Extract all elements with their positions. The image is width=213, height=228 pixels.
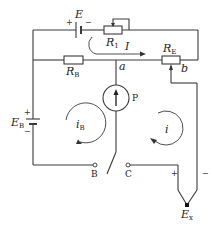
wire — [187, 190, 197, 205]
loop-ib-curve — [66, 103, 106, 143]
tap-arrow-icon — [169, 64, 173, 70]
re-tap — [169, 64, 197, 205]
node-b-label: b — [181, 62, 188, 75]
current-arrow-icon — [140, 52, 146, 57]
ex-branch: C + − Ex — [125, 163, 209, 222]
left-branch: B + − EB — [10, 30, 98, 179]
eb-label: EB — [10, 116, 24, 130]
battery-e-plus: + — [66, 18, 73, 27]
ex-label: Ex — [180, 208, 193, 222]
terminal-b — [93, 163, 97, 167]
ex-junction — [185, 203, 189, 207]
rb-label: RB — [65, 65, 79, 79]
galvanometer-label: P — [132, 93, 138, 103]
r1-slider-loop — [113, 19, 129, 30]
ex-minus: − — [202, 169, 209, 178]
rb-body — [64, 56, 83, 64]
terminal-c-label: C — [125, 169, 132, 179]
loop-i-arrow-icon — [150, 138, 157, 144]
current-i-label: I — [124, 40, 130, 53]
wire — [178, 190, 187, 205]
battery-e: + − E — [66, 8, 92, 38]
galvanometer-arrow-icon — [114, 89, 119, 95]
r1-label: R1 — [105, 36, 119, 50]
terminal-b-label: B — [91, 169, 98, 179]
galvanometer-p: P — [103, 60, 138, 174]
re-label: RE — [162, 42, 176, 56]
battery-e-label: E — [74, 8, 83, 21]
battery-e-minus: − — [85, 18, 92, 27]
loop-ib-label: iB — [76, 118, 85, 132]
ex-plus: + — [171, 169, 178, 178]
node-a-label: a — [119, 60, 126, 73]
switch-blade[interactable] — [107, 152, 116, 174]
eb-plus: + — [24, 108, 31, 117]
loop-i-curve — [155, 111, 183, 145]
loop-i-label: i — [165, 123, 169, 136]
terminal-c — [126, 163, 130, 167]
loop-ib-indicator: iB — [66, 103, 106, 144]
r1-body — [104, 26, 122, 34]
eb-minus: − — [24, 127, 31, 136]
re-body — [162, 56, 180, 64]
circuit-diagram: + − E R1 I RB RE a b — [0, 0, 213, 228]
loop-i-indicator: i — [150, 111, 183, 145]
loop-ib-arrow-icon — [76, 140, 82, 145]
